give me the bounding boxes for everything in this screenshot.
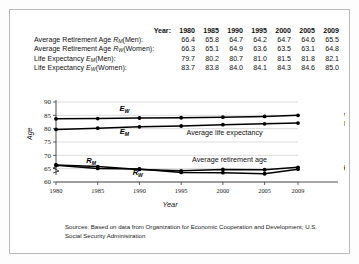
cell-value: 65.1 xyxy=(195,45,219,54)
data-point xyxy=(138,125,142,129)
y-axis-tick-label: 70 xyxy=(44,152,52,160)
row-label-life-expectancy-women: Life Expectancy EW(Women): xyxy=(34,64,171,73)
data-point xyxy=(179,171,183,175)
cell-value: 81.8 xyxy=(291,55,315,64)
data-point xyxy=(54,117,58,121)
curve-symbol-label: RM xyxy=(86,156,96,166)
data-point xyxy=(263,115,267,119)
row-label-suffix: (Women): xyxy=(123,45,154,53)
chart-svg: 6065707580859019801985199019952000200520… xyxy=(30,96,345,200)
row-label-suffix: (Women): xyxy=(96,64,127,72)
data-point xyxy=(263,122,267,126)
curve-symbol-subscript: W xyxy=(138,172,144,178)
data-point xyxy=(221,171,225,175)
data-point xyxy=(179,124,183,128)
row-label-prefix: Life Expectancy xyxy=(34,55,86,63)
y-axis-tick-label: 75 xyxy=(44,138,52,146)
chart-annotation: Average life expectancy xyxy=(186,128,263,137)
cell-value: 81.5 xyxy=(267,55,291,64)
cell-value: 83.8 xyxy=(195,64,219,73)
series-side-label: Women xyxy=(344,165,345,174)
x-axis-tick-label: 2009 xyxy=(292,187,305,194)
cell-value: 84.3 xyxy=(267,64,291,73)
x-axis-tick-label: 2005 xyxy=(258,187,271,194)
x-axis-tick-label: 2000 xyxy=(217,187,230,194)
cell-value: 64.7 xyxy=(267,36,291,45)
data-point xyxy=(179,116,183,120)
cell-value: 63.5 xyxy=(267,45,291,54)
cell-value: 85.0 xyxy=(315,64,339,73)
data-point xyxy=(96,126,100,130)
cell-value: 84.1 xyxy=(243,64,267,73)
cell-value: 64.6 xyxy=(291,36,315,45)
curve-symbol-subscript: W xyxy=(125,108,131,114)
cell-value: 65.5 xyxy=(315,36,339,45)
chart-axes: 6065707580859019801985199019952000200520… xyxy=(44,98,338,194)
cell-value: 64.8 xyxy=(315,45,339,54)
table-header-row: Year: 1980 1985 1990 1995 2000 2005 2009 xyxy=(34,27,339,36)
cell-value: 81.0 xyxy=(243,55,267,64)
row-label-suffix: (Men): xyxy=(123,36,144,44)
year-header-2000: 2000 xyxy=(267,27,291,36)
data-point xyxy=(221,115,225,119)
curve-symbol-label: EW xyxy=(119,104,130,114)
cell-value: 79.7 xyxy=(171,55,195,64)
year-header-1980: 1980 xyxy=(171,27,195,36)
cell-value: 65.8 xyxy=(195,36,219,45)
data-point xyxy=(54,163,58,167)
curve-symbol-subscript: M xyxy=(92,160,97,166)
data-point xyxy=(96,167,100,171)
chart-x-axis-title: Year xyxy=(30,200,310,209)
year-header-2009: 2009 xyxy=(315,27,339,36)
row-label-suffix: (Men): xyxy=(95,55,116,63)
cell-value: 66.3 xyxy=(171,45,195,54)
source-note: Sources: Based on data from Organization… xyxy=(65,223,340,241)
x-axis-tick-label: 1995 xyxy=(175,187,188,194)
data-table: Year: 1980 1985 1990 1995 2000 2005 2009… xyxy=(34,27,339,73)
year-header-1985: 1985 xyxy=(195,27,219,36)
y-axis-tick-label: 85 xyxy=(44,112,52,120)
cell-value: 80.7 xyxy=(219,55,243,64)
chart-line xyxy=(56,115,298,118)
chart-annotation: Average retirement age xyxy=(192,155,267,164)
data-point xyxy=(263,172,267,176)
cell-value: 82.1 xyxy=(315,55,339,64)
data-point xyxy=(296,121,300,125)
cell-value: 64.9 xyxy=(219,45,243,54)
table-row: Life Expectancy EM(Men): 79.7 80.2 80.7 … xyxy=(34,55,339,64)
data-point xyxy=(54,128,58,132)
cell-value: 84.6 xyxy=(291,64,315,73)
source-line-2: Social Security Administration xyxy=(65,232,340,241)
row-label-prefix: Life Expectancy xyxy=(34,64,86,72)
row-label-retirement-women: Average Retirement Age RW(Women): xyxy=(34,45,171,54)
data-point xyxy=(138,116,142,120)
table-row: Average Retirement Age RM(Men): 66.4 65.… xyxy=(34,36,339,45)
curve-symbol-subscript: M xyxy=(125,131,130,137)
data-point xyxy=(296,167,300,171)
cell-value: 64.7 xyxy=(219,36,243,45)
figure-page: Year: 1980 1985 1990 1995 2000 2005 2009… xyxy=(0,0,359,264)
series-side-label: Men xyxy=(344,119,345,128)
cell-value: 84.0 xyxy=(219,64,243,73)
data-table-body: Year: 1980 1985 1990 1995 2000 2005 2009… xyxy=(34,27,339,73)
x-axis-tick-label: 1990 xyxy=(133,187,146,194)
cell-value: 64.2 xyxy=(243,36,267,45)
chart-series-group xyxy=(54,113,300,175)
x-axis-tick-label: 1980 xyxy=(50,187,63,194)
cell-value: 66.4 xyxy=(171,36,195,45)
row-label-life-expectancy-men: Life Expectancy EM(Men): xyxy=(34,55,171,64)
year-header-2005: 2005 xyxy=(291,27,315,36)
figure-frame: Year: 1980 1985 1990 1995 2000 2005 2009… xyxy=(9,9,350,254)
row-label-prefix: Average Retirement Age xyxy=(34,36,113,44)
cell-value: 63.6 xyxy=(243,45,267,54)
year-header-1995: 1995 xyxy=(243,27,267,36)
data-point xyxy=(263,168,267,172)
table-row: Average Retirement Age RW(Women): 66.3 6… xyxy=(34,45,339,54)
cell-value: 83.7 xyxy=(171,64,195,73)
x-axis-tick-label: 1985 xyxy=(91,187,104,194)
data-point xyxy=(96,117,100,121)
data-table-container: Year: 1980 1985 1990 1995 2000 2005 2009… xyxy=(34,27,339,73)
year-header-cell: Year: xyxy=(34,27,171,36)
y-axis-tick-label: 80 xyxy=(44,125,52,133)
data-point xyxy=(221,123,225,127)
